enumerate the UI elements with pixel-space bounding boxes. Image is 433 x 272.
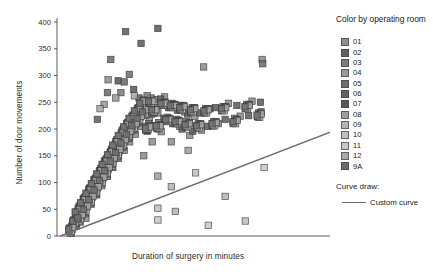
data-point[interactable] (142, 125, 148, 131)
data-point[interactable] (88, 180, 94, 186)
data-point[interactable] (254, 112, 260, 118)
data-point[interactable] (167, 102, 173, 108)
data-point[interactable] (205, 222, 211, 228)
data-point[interactable] (168, 139, 174, 145)
legend-item-03[interactable]: 03 (341, 58, 433, 68)
legend-label-01: 01 (353, 38, 361, 46)
data-point[interactable] (172, 118, 178, 124)
data-point[interactable] (131, 93, 137, 99)
legend-item-07[interactable]: 07 (341, 99, 433, 109)
legend-label-08: 08 (353, 111, 361, 119)
data-point[interactable] (153, 123, 159, 129)
data-point[interactable] (102, 168, 108, 174)
data-point[interactable] (200, 64, 206, 70)
data-point[interactable] (104, 151, 110, 157)
data-point[interactable] (75, 215, 81, 221)
legend-item-02[interactable]: 02 (341, 47, 433, 57)
legend-item-9A[interactable]: 9A (341, 161, 433, 171)
data-point[interactable] (230, 118, 236, 124)
data-point[interactable] (141, 153, 147, 159)
data-point[interactable] (138, 40, 144, 46)
data-point[interactable] (104, 89, 110, 95)
data-point[interactable] (139, 109, 145, 115)
data-point[interactable] (155, 217, 161, 223)
data-point[interactable] (187, 107, 193, 113)
data-point[interactable] (113, 95, 119, 101)
y-tick-label-0: 0 (47, 232, 51, 241)
data-point[interactable] (134, 115, 140, 121)
data-point[interactable] (97, 105, 103, 111)
legend-label-12: 12 (353, 152, 361, 160)
data-point[interactable] (99, 161, 105, 167)
data-point[interactable] (260, 61, 266, 67)
data-point[interactable] (137, 100, 143, 106)
data-point[interactable] (126, 115, 132, 121)
data-point[interactable] (261, 164, 267, 170)
data-point[interactable] (185, 147, 191, 153)
data-point[interactable] (148, 107, 154, 113)
legend-item-06[interactable]: 06 (341, 89, 433, 99)
legend-item-10[interactable]: 10 (341, 130, 433, 140)
legend-item-01[interactable]: 01 (341, 37, 433, 47)
data-point[interactable] (123, 131, 129, 137)
data-point[interactable] (245, 112, 251, 118)
data-point[interactable] (107, 158, 113, 164)
data-point[interactable] (93, 171, 99, 177)
data-point[interactable] (122, 28, 128, 34)
data-point[interactable] (182, 122, 188, 128)
data-point[interactable] (145, 98, 151, 104)
data-point[interactable] (105, 77, 111, 83)
data-point[interactable] (201, 108, 207, 114)
data-point[interactable] (193, 123, 199, 129)
legend-item-04[interactable]: 04 (341, 68, 433, 78)
data-point[interactable] (94, 116, 100, 122)
plot-canvas: 050100150200250300350400 (0, 0, 330, 272)
data-point[interactable] (130, 86, 136, 92)
legend-item-05[interactable]: 05 (341, 78, 433, 88)
data-point[interactable] (155, 205, 161, 211)
data-point[interactable] (149, 139, 155, 145)
data-point[interactable] (172, 208, 178, 214)
data-point[interactable] (158, 100, 164, 106)
data-point[interactable] (85, 196, 91, 202)
data-point[interactable] (80, 206, 86, 212)
data-point[interactable] (222, 193, 228, 199)
legend-swatch-03 (341, 59, 349, 67)
data-point[interactable] (209, 120, 215, 126)
data-point[interactable] (115, 78, 121, 84)
data-point[interactable] (177, 104, 183, 110)
data-point[interactable] (120, 124, 126, 130)
legend-item-11[interactable]: 11 (341, 140, 433, 150)
data-point[interactable] (155, 25, 161, 31)
legend-item-08[interactable]: 08 (341, 109, 433, 119)
data-point[interactable] (96, 177, 102, 183)
data-point[interactable] (234, 102, 240, 108)
legend-item-09[interactable]: 09 (341, 120, 433, 130)
curve-legend-item[interactable]: Custom curve (342, 198, 432, 207)
data-point[interactable] (168, 184, 174, 190)
data-point[interactable] (257, 99, 263, 105)
data-point[interactable] (162, 116, 168, 122)
legend-item-12[interactable]: 12 (341, 151, 433, 161)
data-point[interactable] (77, 200, 83, 206)
data-point[interactable] (121, 79, 127, 85)
data-point[interactable] (218, 105, 224, 111)
data-point[interactable] (242, 218, 248, 224)
data-point[interactable] (131, 108, 137, 114)
data-point[interactable] (115, 132, 121, 138)
data-point[interactable] (126, 71, 132, 77)
data-point[interactable] (155, 173, 161, 179)
data-point[interactable] (118, 140, 124, 146)
data-point[interactable] (108, 56, 114, 62)
data-point[interactable] (192, 170, 198, 176)
data-point[interactable] (83, 190, 89, 196)
data-point[interactable] (72, 209, 78, 215)
data-point[interactable] (242, 103, 248, 109)
data-point[interactable] (91, 187, 97, 193)
data-point[interactable] (128, 123, 134, 129)
data-point[interactable] (110, 142, 116, 148)
y-tick-label-400: 400 (38, 18, 51, 27)
data-point[interactable] (112, 149, 118, 155)
curve-legend-label: Custom curve (370, 198, 418, 207)
data-point[interactable] (222, 116, 228, 122)
